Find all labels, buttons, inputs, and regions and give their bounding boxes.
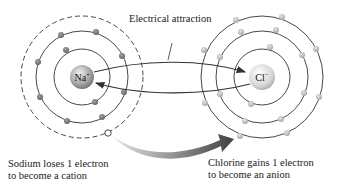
lost-electron-icon [105, 130, 111, 136]
attraction-arrows [94, 43, 250, 93]
arrow-to-chloride [94, 62, 245, 72]
arrow-to-sodium [96, 83, 250, 93]
sodium-caption-line1: Sodium loses 1 electron [8, 158, 109, 170]
electron-transfer-arrow [112, 134, 234, 159]
chlorine-caption-line1: Chlorine gains 1 electron [208, 157, 314, 169]
electrical-attraction-label: Electrical attraction [128, 13, 213, 25]
sodium-caption-line2: to become a cation [8, 170, 109, 182]
label-leader-line [168, 43, 172, 60]
sodium-caption: Sodium loses 1 electron to become a cati… [8, 158, 109, 182]
chlorine-caption-line2: to become an anion [208, 169, 314, 181]
chlorine-caption: Chlorine gains 1 electron to become an a… [208, 157, 314, 181]
